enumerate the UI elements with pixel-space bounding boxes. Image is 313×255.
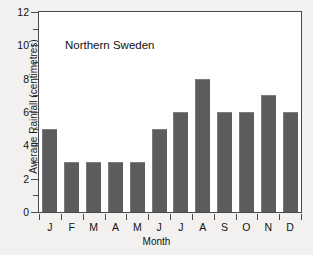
x-axis-tick: [105, 214, 106, 220]
bar: [239, 112, 254, 212]
x-axis-tick-label: J: [169, 222, 193, 233]
x-axis-tick-label: J: [147, 222, 171, 233]
bar: [130, 162, 145, 212]
y-axis-tick-major: [31, 179, 38, 180]
x-axis-tick-label: S: [213, 222, 237, 233]
bar: [195, 79, 210, 212]
y-axis-tick-major: [31, 212, 38, 213]
x-axis-tick-label: O: [234, 222, 258, 233]
x-axis-tick: [148, 214, 149, 220]
y-axis-tick-major: [31, 112, 38, 113]
y-axis-tick-major: [31, 79, 38, 80]
plot-area: Northern Sweden: [38, 11, 302, 213]
bar: [64, 162, 79, 212]
y-axis-tick-label: 10: [0, 40, 29, 51]
y-axis-tick-major: [31, 12, 38, 13]
x-axis-tick: [301, 214, 302, 220]
x-axis-tick: [236, 214, 237, 220]
x-axis-tick-label: N: [256, 222, 280, 233]
bar: [261, 95, 276, 212]
x-axis-tick: [279, 214, 280, 220]
bar: [86, 162, 101, 212]
x-axis-tick: [192, 214, 193, 220]
y-axis-tick-label: 6: [0, 107, 29, 118]
x-axis-tick-label: F: [60, 222, 84, 233]
x-axis-tick: [257, 214, 258, 220]
x-axis-tick: [126, 214, 127, 220]
y-axis-tick-label: 8: [0, 74, 29, 85]
x-axis-tick: [83, 214, 84, 220]
y-axis-title: Average Rainfall (centimetres): [28, 7, 39, 207]
y-axis-tick-major: [31, 45, 38, 46]
x-axis-tick: [170, 214, 171, 220]
bar: [108, 162, 123, 212]
bar: [217, 112, 232, 212]
x-axis-tick: [61, 214, 62, 220]
x-axis-tick: [214, 214, 215, 220]
y-axis-tick-major: [31, 145, 38, 146]
x-axis-tick-label: D: [278, 222, 302, 233]
chart-annotation-label: Northern Sweden: [65, 39, 155, 51]
y-axis-tick-label: 2: [0, 174, 29, 185]
x-axis-tick-label: M: [82, 222, 106, 233]
x-axis-tick-label: A: [191, 222, 215, 233]
x-axis-tick-label: M: [125, 222, 149, 233]
bar: [42, 129, 57, 212]
x-axis-tick-label: A: [103, 222, 127, 233]
x-axis-title: Month: [0, 236, 313, 247]
x-axis-tick-label: J: [38, 222, 62, 233]
bar: [283, 112, 298, 212]
y-axis-tick-label: 4: [0, 140, 29, 151]
y-axis-tick-label: 12: [0, 7, 29, 18]
bar: [173, 112, 188, 212]
y-axis-tick-label: 0: [0, 207, 29, 218]
x-axis-tick: [39, 214, 40, 220]
rainfall-bar-chart: Average Rainfall (centimetres) 024681012…: [0, 0, 313, 255]
bar: [152, 129, 167, 212]
